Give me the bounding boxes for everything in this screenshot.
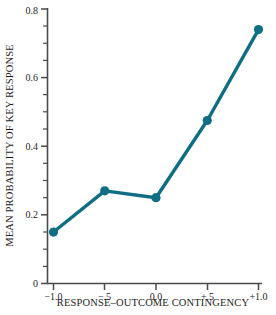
data-series-markers: [49, 25, 263, 237]
data-point: [151, 193, 160, 202]
data-point: [100, 186, 109, 195]
y-tick-label: 0.2: [26, 209, 39, 220]
y-axis-tick-labels: 0 0.2 0.4 0.6 0.8: [26, 5, 39, 290]
axis-spine-path: [48, 8, 263, 284]
data-point: [254, 25, 263, 34]
axis-spines: [48, 8, 263, 284]
plot-area: 0 0.2 0.4 0.6 0.8 −1.0 −.5 0.0 +.5 +1.0: [0, 0, 276, 315]
x-axis-title: RESPONSE–OUTCOME CONTINGENCY: [30, 297, 276, 308]
chart-figure: MEAN PROBABILITY OF KEY RESPONSE: [0, 0, 276, 315]
x-axis-major-ticks: [54, 284, 259, 291]
y-tick-label: 0.4: [26, 141, 39, 152]
data-point: [49, 227, 58, 236]
y-tick-label: 0: [33, 278, 38, 289]
y-axis-major-ticks: [41, 9, 48, 284]
data-point: [203, 116, 212, 125]
y-tick-label: 0.8: [26, 5, 39, 16]
y-tick-label: 0.6: [26, 72, 39, 83]
x-axis-title-label: RESPONSE–OUTCOME CONTINGENCY: [57, 297, 249, 308]
